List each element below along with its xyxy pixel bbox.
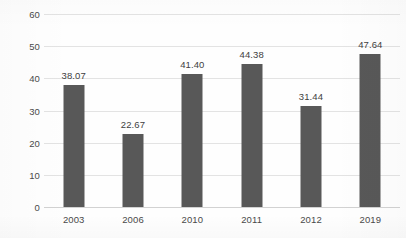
x-axis-tick-label: 2019 — [360, 214, 382, 225]
bar-value-label: 31.44 — [299, 91, 323, 102]
y-axis-tick-label: 0 — [6, 202, 40, 213]
bar[interactable] — [300, 106, 321, 207]
x-axis-tick-label: 2010 — [182, 214, 204, 225]
bar-group: 38.07 — [44, 14, 103, 207]
y-axis-tick-label: 50 — [6, 41, 40, 52]
bar-group: 31.44 — [281, 14, 340, 207]
x-axis-tick-label: 2011 — [241, 214, 262, 225]
y-axis-tick-label: 20 — [6, 137, 40, 148]
y-axis-tick-label: 40 — [6, 73, 40, 84]
x-axis-tick-label: 2003 — [63, 214, 85, 225]
bar[interactable] — [63, 85, 84, 207]
bar-value-label: 44.38 — [240, 49, 264, 60]
bar-value-label: 47.64 — [358, 39, 382, 50]
y-axis-tick-label: 10 — [6, 169, 40, 180]
bar-value-label: 38.07 — [62, 70, 86, 81]
plot-area: 38.0722.6741.4044.3831.4447.64 — [44, 14, 400, 207]
bar-value-label: 41.40 — [180, 59, 204, 70]
x-axis-tick-label: 2006 — [122, 214, 144, 225]
bar[interactable] — [122, 134, 143, 207]
bar[interactable] — [182, 74, 203, 207]
bar[interactable] — [241, 64, 262, 207]
bar-group: 47.64 — [341, 14, 400, 207]
bar-chart: 0102030405060 38.0722.6741.4044.3831.444… — [0, 0, 406, 238]
bar[interactable] — [360, 54, 381, 207]
x-axis-line — [44, 207, 400, 208]
x-axis-tick-label: 2012 — [300, 214, 322, 225]
bar-value-label: 22.67 — [121, 119, 145, 130]
y-axis-tick-label: 30 — [6, 105, 40, 116]
bar-group: 41.40 — [163, 14, 222, 207]
y-axis-tick-label: 60 — [6, 9, 40, 20]
bar-group: 22.67 — [103, 14, 162, 207]
bar-group: 44.38 — [222, 14, 281, 207]
